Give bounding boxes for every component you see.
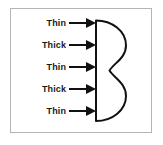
double-lobe-cross-section xyxy=(0,0,163,145)
shape-outline xyxy=(96,21,126,122)
figure-container: Thin Thick Thin Thick xyxy=(0,0,163,145)
